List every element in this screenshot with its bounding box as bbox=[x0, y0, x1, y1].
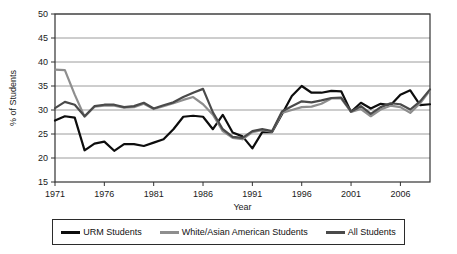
x-tick-labels: 19711976198119861991199620012006 bbox=[45, 189, 410, 199]
y-axis-title: % of Students bbox=[8, 69, 18, 126]
x-tick-label: 1996 bbox=[292, 189, 312, 199]
chart-legend: URM Students White/Asian American Studen… bbox=[52, 219, 405, 245]
plot-background bbox=[55, 14, 430, 182]
y-tick-label: 50 bbox=[38, 9, 48, 19]
y-tick-label: 35 bbox=[38, 81, 48, 91]
legend-swatch-all-students bbox=[326, 231, 345, 234]
y-tick-label: 40 bbox=[38, 57, 48, 67]
y-tick-label: 30 bbox=[38, 105, 48, 115]
legend-label-all-students: All Students bbox=[348, 228, 396, 237]
legend-item-urm-students: URM Students bbox=[61, 228, 142, 237]
x-tick-label: 2001 bbox=[341, 189, 361, 199]
x-tick-label: 1976 bbox=[94, 189, 114, 199]
line-chart: 1520253035404550 19711976198119861991199… bbox=[0, 0, 457, 210]
chart-plot-svg: 1520253035404550 19711976198119861991199… bbox=[0, 0, 457, 210]
legend-label-urm-students: URM Students bbox=[83, 228, 142, 237]
y-tick-label: 20 bbox=[38, 153, 48, 163]
legend-label-white-asian-american-students: White/Asian American Students bbox=[182, 228, 308, 237]
x-axis-title: Year bbox=[233, 202, 251, 210]
legend-item-all-students: All Students bbox=[326, 228, 396, 237]
legend-swatch-white-asian-american-students bbox=[160, 231, 179, 234]
legend-swatch-urm-students bbox=[61, 231, 80, 234]
x-tick-label: 1986 bbox=[193, 189, 213, 199]
x-tick-label: 1981 bbox=[144, 189, 164, 199]
y-tick-label: 25 bbox=[38, 129, 48, 139]
y-tick-label: 45 bbox=[38, 33, 48, 43]
legend-item-white-asian-american-students: White/Asian American Students bbox=[160, 228, 308, 237]
y-tick-label: 15 bbox=[38, 177, 48, 187]
x-tick-label: 1991 bbox=[242, 189, 262, 199]
x-tick-label: 1971 bbox=[45, 189, 65, 199]
y-tick-labels: 1520253035404550 bbox=[38, 9, 48, 187]
chart-figure: 1520253035404550 19711976198119861991199… bbox=[0, 0, 457, 254]
x-tick-marks bbox=[55, 182, 400, 186]
x-tick-label: 2006 bbox=[390, 189, 410, 199]
